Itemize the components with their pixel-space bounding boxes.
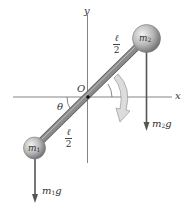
theta-label: θ xyxy=(57,102,63,112)
fraction-numerator: ℓ xyxy=(67,128,71,137)
y-axis-label: y xyxy=(84,6,90,16)
upper-angle-arc xyxy=(108,84,112,97)
m1g-arrowhead-icon xyxy=(32,194,38,203)
lower-half-length-label: ℓ 2 xyxy=(65,128,72,149)
mass-m1-label: m1 xyxy=(28,144,40,153)
m2g-arrowhead-icon xyxy=(144,122,150,131)
m2g-force-label: m2g xyxy=(152,119,172,129)
x-axis-label: x xyxy=(175,91,181,101)
diagram-canvas xyxy=(0,0,191,205)
fraction-denominator: 2 xyxy=(66,140,72,149)
fraction-numerator: ℓ xyxy=(115,34,119,43)
m1g-force-label: m1g xyxy=(42,186,62,196)
origin-label: O xyxy=(77,84,85,94)
upper-half-length-label: ℓ 2 xyxy=(113,34,120,55)
mass-m2-label: m2 xyxy=(139,34,151,43)
pivot-point xyxy=(86,95,90,99)
rotation-arrow-icon xyxy=(114,74,130,122)
fraction-denominator: 2 xyxy=(114,46,120,55)
